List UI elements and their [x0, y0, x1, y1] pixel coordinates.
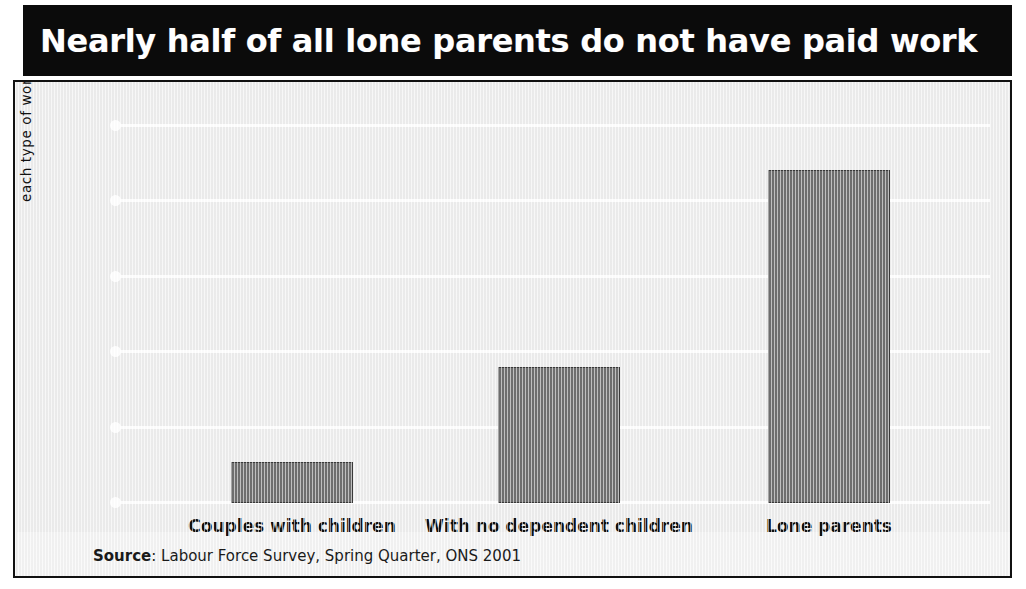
gridline-50 — [118, 124, 990, 127]
source-separator: : — [151, 547, 161, 565]
chart-panel: Workless households as a percentage of e… — [13, 80, 1012, 578]
title-banner: Nearly half of all lone parents do not h… — [23, 5, 1012, 76]
y-axis-title: Workless households as a percentage of e… — [13, 80, 36, 202]
x-tick-label-lone-parents: Lone parents — [709, 516, 949, 536]
x-tick-label-with-no-dependent-children: With no dependent children — [405, 516, 713, 536]
source-text: Labour Force Survey, Spring Quarter, ONS… — [161, 547, 521, 565]
chart-title: Nearly half of all lone parents do not h… — [23, 25, 977, 57]
tick-dot-20 — [110, 346, 121, 357]
plot-area: 50 40 30 20 10 0 Couples with children W… — [105, 124, 990, 503]
tick-dot-0 — [110, 497, 121, 508]
source-note: Source: Labour Force Survey, Spring Quar… — [93, 547, 521, 565]
tick-dot-10 — [110, 422, 121, 433]
chart-figure: Nearly half of all lone parents do not h… — [0, 0, 1026, 589]
bar-lone-parents[interactable] — [768, 170, 890, 503]
tick-dot-50 — [110, 120, 121, 131]
bar-with-no-dependent-children[interactable] — [498, 367, 620, 503]
bar-couples-with-children[interactable] — [231, 462, 353, 503]
tick-dot-40 — [110, 195, 121, 206]
y-axis-title-line-2: each type of working age household — [17, 80, 37, 202]
source-label: Source — [93, 547, 151, 565]
tick-dot-30 — [110, 271, 121, 282]
x-tick-label-couples-with-children: Couples with children — [162, 516, 422, 536]
